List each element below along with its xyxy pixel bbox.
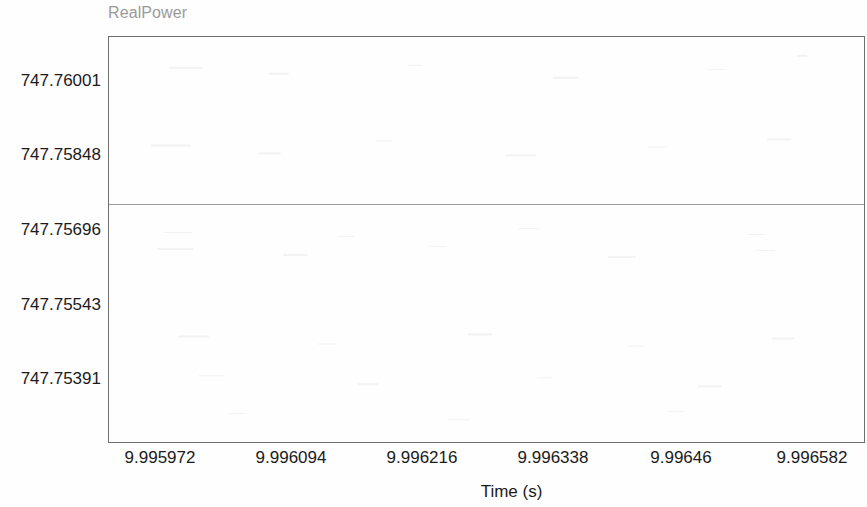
y-tick-label: 747.75543 bbox=[0, 295, 101, 315]
x-axis-title-text: Time (s) bbox=[481, 482, 543, 501]
y-tick-label: 747.75848 bbox=[0, 145, 101, 165]
plot-area bbox=[108, 36, 865, 443]
data-series-realpower bbox=[109, 204, 864, 205]
x-tick-label: 9.995972 bbox=[125, 448, 196, 468]
chart-title: RealPower bbox=[108, 4, 187, 22]
y-tick-label: 747.75391 bbox=[0, 369, 101, 389]
x-tick-label: 9.996216 bbox=[387, 448, 458, 468]
x-tick-label: 9.996094 bbox=[256, 448, 327, 468]
y-tick-label: 747.75696 bbox=[0, 220, 101, 240]
chart-container: RealPower 747.76001 747.75848 747.75696 … bbox=[0, 0, 867, 507]
x-axis-title: Time (s) bbox=[0, 482, 867, 502]
x-tick-label: 9.99646 bbox=[650, 448, 711, 468]
y-tick-label: 747.76001 bbox=[0, 71, 101, 91]
x-tick-label: 9.996582 bbox=[777, 448, 848, 468]
x-tick-label: 9.996338 bbox=[518, 448, 589, 468]
x-axis-labels: 9.995972 9.996094 9.996216 9.996338 9.99… bbox=[0, 448, 867, 472]
scan-noise-texture bbox=[109, 37, 864, 442]
